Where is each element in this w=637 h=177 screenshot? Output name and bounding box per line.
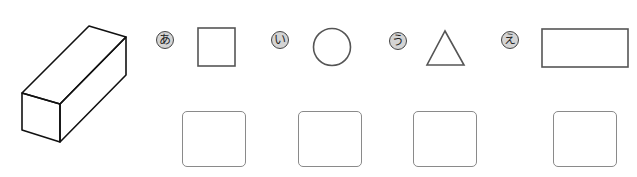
circle-shape-icon: [314, 29, 351, 66]
answer-box-3[interactable]: [413, 111, 477, 167]
option-label: う: [392, 35, 404, 47]
answer-box-2[interactable]: [298, 111, 362, 167]
option-label: あ: [159, 34, 171, 46]
option-badge-i: い: [271, 31, 289, 49]
option-badge-a: あ: [156, 31, 174, 49]
option-label: い: [274, 34, 286, 46]
triangle-shape-icon: [427, 31, 464, 65]
rectangular-prism-icon: [22, 26, 126, 142]
answer-box-1[interactable]: [182, 111, 246, 167]
option-label: え: [504, 34, 516, 46]
rectangle-shape-icon: [542, 29, 628, 67]
option-badge-u: う: [389, 32, 407, 50]
option-badge-e: え: [501, 31, 519, 49]
answer-box-4[interactable]: [553, 111, 617, 167]
square-shape-icon: [198, 28, 235, 66]
